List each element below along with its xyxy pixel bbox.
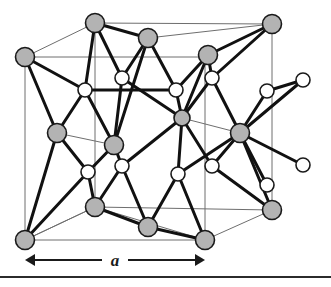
crystal-structure-diagram: a	[0, 0, 331, 287]
tetrahedral-atom-lower-right-inner	[171, 167, 185, 181]
face-center-atom-top-right	[199, 46, 218, 65]
external-atom-far-lower-right	[296, 158, 310, 172]
figure-background	[0, 0, 331, 287]
corner-atom-back-top-left	[86, 14, 105, 33]
corner-atom-back-bottom-right	[263, 201, 282, 220]
external-atom-lower-right	[260, 178, 274, 192]
face-center-atom-front	[105, 136, 124, 155]
tetrahedral-atom-upper-left	[78, 83, 92, 97]
face-center-atom-top	[139, 29, 158, 48]
tetrahedral-atom-upper-right-inner	[169, 83, 183, 97]
tetrahedral-atom-lower-mid	[115, 159, 129, 173]
corner-atom-front-top-left	[16, 48, 35, 67]
face-center-atom-interior	[174, 110, 190, 126]
face-center-atom-left	[48, 124, 67, 143]
external-atom-upper-right	[260, 84, 274, 98]
face-center-atom-bottom	[139, 218, 158, 237]
face-center-atom-right	[231, 124, 250, 143]
corner-atom-front-bottom-right	[196, 231, 215, 250]
crystal-structure-figure: a	[0, 0, 331, 287]
external-atom-far-upper-right	[296, 73, 310, 87]
corner-atom-back-bottom-left	[86, 198, 105, 217]
tetrahedral-atom-upper-right	[205, 71, 219, 85]
tetrahedral-atom-lower-left	[81, 165, 95, 179]
tetrahedral-atom-lower-right	[205, 159, 219, 173]
corner-atom-front-bottom-left	[16, 231, 35, 250]
tetrahedral-atom-upper-mid	[115, 71, 129, 85]
corner-atom-back-top-right	[263, 15, 282, 34]
lattice-constant-label: a	[111, 251, 120, 270]
